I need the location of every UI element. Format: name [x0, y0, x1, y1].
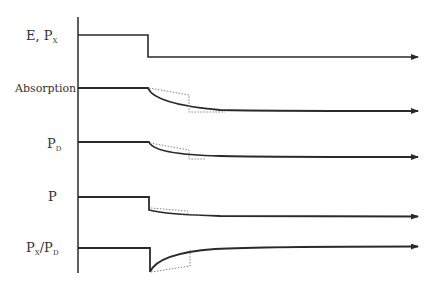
label-absorption: Absorption	[14, 82, 76, 95]
label-e-px: E, PX	[26, 28, 58, 45]
label-px-pd: PX/PD	[26, 240, 59, 257]
trace-px-pd	[78, 247, 418, 273]
trace-absorption-ideal	[149, 88, 225, 112]
trace-e-px	[78, 35, 418, 57]
trace-pd	[78, 142, 418, 157]
trace-absorption	[78, 88, 418, 111]
response-diagram: E, PX Absorption PD P PX/PD	[0, 0, 431, 285]
trace-pd-ideal	[150, 143, 205, 159]
trace-p	[78, 197, 418, 217]
label-pd: PD	[47, 136, 62, 153]
label-p: P	[48, 189, 57, 204]
